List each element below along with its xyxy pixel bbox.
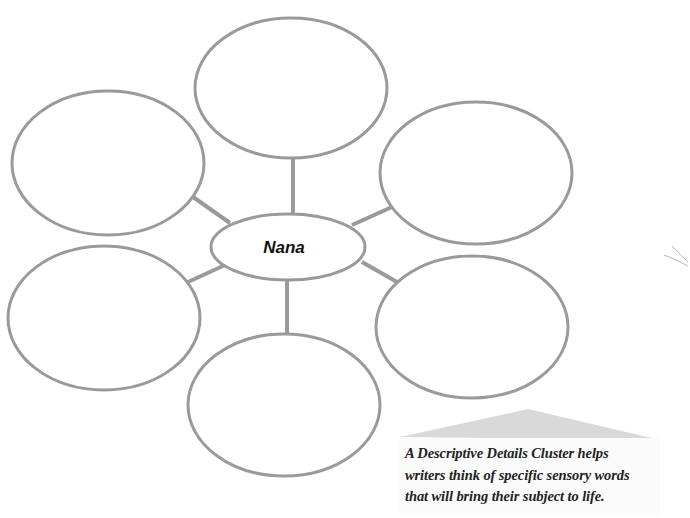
detail-bubble-bottom <box>188 334 380 476</box>
caption: A Descriptive Details Cluster helps writ… <box>405 443 690 508</box>
caption-line-1: A Descriptive Details Cluster helps <box>405 443 690 465</box>
connector-upper-right <box>352 207 392 225</box>
detail-bubble-top <box>195 18 387 158</box>
detail-bubble-lower-left <box>8 246 200 390</box>
detail-bubble-upper-right <box>380 102 572 244</box>
connector-lower-right <box>362 262 397 282</box>
center-label: Nana <box>263 238 305 257</box>
connector-lower-left <box>188 265 225 282</box>
caption-line-2: writers think of specific sensory words <box>405 465 690 487</box>
stray-pen-mark <box>664 246 688 266</box>
connector-upper-left <box>193 197 230 223</box>
detail-bubble-upper-left <box>12 91 204 235</box>
center-node: Nana <box>211 214 365 280</box>
caption-pointer <box>400 409 660 440</box>
caption-line-3: that will bring their subject to life. <box>405 486 690 508</box>
detail-bubble-lower-right <box>376 256 568 398</box>
